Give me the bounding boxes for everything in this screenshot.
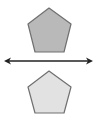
diagram-canvas [0, 0, 97, 115]
pre-image-pentagon [28, 8, 71, 52]
image-pentagon [28, 71, 71, 113]
reflection-diagram [0, 0, 97, 115]
